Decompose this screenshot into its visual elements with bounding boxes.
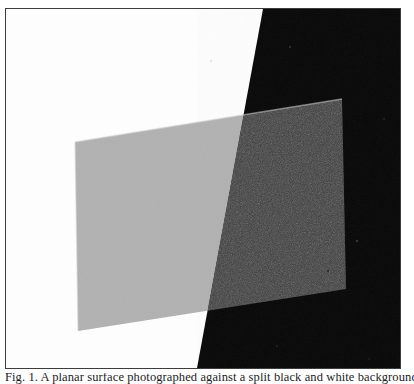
figure-caption: Fig. 1. A planar surface photographed ag… <box>5 373 409 384</box>
figure-caption-clip: Fig. 1. A planar surface photographed ag… <box>0 373 414 384</box>
figure-frame <box>5 8 401 369</box>
figure-page: Fig. 1. A planar surface photographed ag… <box>0 0 414 384</box>
figure-image <box>6 9 400 368</box>
